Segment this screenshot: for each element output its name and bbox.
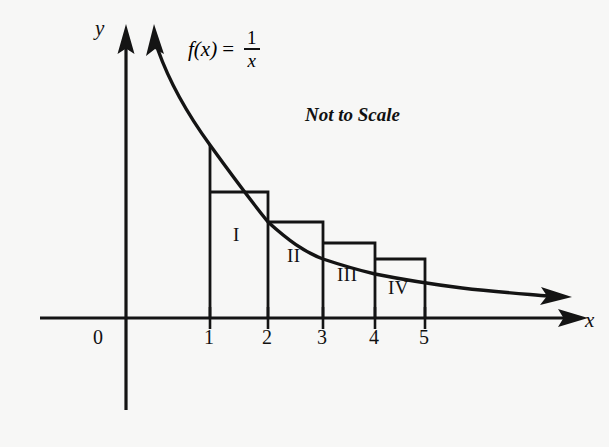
curve-left-arrowhead [146,24,164,56]
rectangle-II [268,222,323,318]
x-tick-label-2: 2 [262,327,272,347]
x-tick-label-1: 1 [204,327,214,347]
formula-denominator: x [245,50,259,70]
x-tick-label-5: 5 [419,327,429,347]
y-axis-label: y [95,18,104,39]
x-tick-label-3: 3 [317,327,327,347]
formula-numerator: 1 [244,28,260,48]
x-axis-label: x [585,310,594,331]
y-axis [118,24,135,410]
rectangle-label-I: I [233,225,240,244]
x-axis [40,309,588,327]
formula-function-name: f(x) [188,37,217,62]
rectangle-label-II: II [287,246,301,265]
origin-label: 0 [93,327,103,347]
x-tick-label-4: 4 [369,327,379,347]
not-to-scale-note: Not to Scale [305,105,400,124]
formula-fraction: 1 x [244,28,260,71]
riemann-sum-diagram [0,0,609,447]
function-formula: f(x) = 1 x [188,28,260,71]
formula-equals: = [222,37,234,62]
rectangle-label-III: III [337,265,357,284]
rectangle-label-IV: IV [388,278,409,297]
figure-root: y x 0 1 2 3 4 5 I II III IV Not to Scale… [0,0,609,447]
